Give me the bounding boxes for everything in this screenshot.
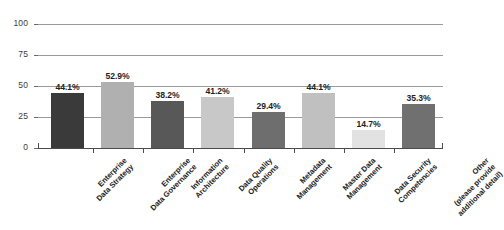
x-tick-6	[344, 148, 345, 153]
category-label-enterprise-data-strategy: Enterprise Data Strategy	[88, 156, 135, 203]
y-tick-mark-50	[34, 86, 38, 87]
value-label-enterprise-data-strategy: 44.1%	[43, 82, 92, 92]
gridline-75	[38, 55, 443, 56]
bar-information-architecture[interactable]	[151, 101, 184, 148]
x-tick-4	[244, 148, 245, 153]
bar-fill	[201, 97, 234, 148]
y-axis-label-50: 50	[2, 81, 28, 90]
y-axis-label-0: 0	[2, 143, 28, 152]
y-tick-mark-100	[34, 24, 38, 25]
bar-data-quality-operations[interactable]	[201, 97, 234, 148]
value-label-information-architecture: 38.2%	[143, 90, 192, 100]
y-axis-label-75: 75	[2, 50, 28, 59]
value-label-metadata-management: 29.4%	[244, 101, 293, 111]
bar-data-security-competencies[interactable]	[352, 130, 385, 148]
bar-fill	[302, 93, 335, 148]
category-label-data-security-competencies: Data Security Competencies	[390, 156, 440, 206]
y-tick-mark-25	[34, 117, 38, 118]
x-axis-right-cap	[442, 143, 443, 149]
bar-enterprise-data-governance[interactable]	[101, 82, 134, 148]
bar-master-data-management[interactable]	[302, 93, 335, 148]
gridline-100	[38, 24, 443, 25]
y-axis-label-25: 25	[2, 112, 28, 121]
x-tick-5	[294, 148, 295, 153]
bar-enterprise-data-strategy[interactable]	[51, 93, 84, 148]
bar-fill	[101, 82, 134, 148]
bar-metadata-management[interactable]	[252, 112, 285, 149]
value-label-data-quality-operations: 41.2%	[193, 86, 242, 96]
x-axis-left-cap	[38, 143, 39, 149]
y-axis-label-100: 100	[2, 19, 28, 28]
value-label-enterprise-data-governance: 52.9%	[93, 71, 142, 81]
x-tick-3	[193, 148, 194, 153]
category-label-other: Other (please provide additional detail)	[442, 156, 504, 218]
x-tick-1	[93, 148, 94, 153]
bar-other[interactable]	[402, 104, 435, 148]
category-label-metadata-management: Metadata Management	[288, 156, 334, 202]
value-label-master-data-management: 44.1%	[294, 82, 343, 92]
bar-fill	[352, 130, 385, 148]
category-label-master-data-management: Master Data Management	[338, 156, 384, 202]
bar-fill	[151, 101, 184, 148]
category-label-information-architecture: Information Architecture	[187, 156, 232, 201]
y-tick-mark-75	[34, 55, 38, 56]
bar-fill	[252, 112, 285, 149]
x-axis-line	[38, 148, 443, 149]
bar-fill	[51, 93, 84, 148]
x-tick-2	[143, 148, 144, 153]
bar-fill	[402, 104, 435, 148]
category-label-data-quality-operations: Data Quality Operations	[237, 156, 281, 200]
x-tick-7	[394, 148, 395, 153]
value-label-other: 35.3%	[394, 93, 443, 103]
value-label-data-security-competencies: 14.7%	[344, 119, 393, 129]
